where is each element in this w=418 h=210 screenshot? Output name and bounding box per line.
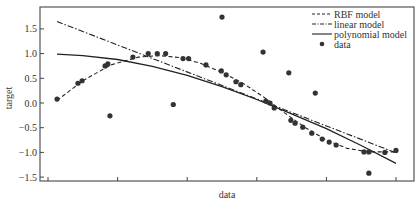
data-point bbox=[272, 105, 277, 110]
data-point bbox=[80, 78, 85, 83]
data-point bbox=[155, 51, 160, 56]
data-point bbox=[186, 56, 191, 61]
legend: RBF modellinear modelpolynomial modeldat… bbox=[312, 9, 407, 50]
data-point bbox=[107, 113, 112, 118]
data-point bbox=[382, 150, 387, 155]
data-point bbox=[130, 54, 135, 59]
data-point bbox=[288, 118, 293, 123]
data-legend-swatch bbox=[320, 42, 325, 47]
data-point bbox=[224, 72, 229, 77]
data-point bbox=[313, 91, 318, 96]
data-point bbox=[320, 136, 325, 141]
x-axis-ticks bbox=[48, 177, 396, 181]
data-point bbox=[171, 102, 176, 107]
y-tick-label: 0.0 bbox=[25, 98, 38, 109]
data-point bbox=[366, 149, 371, 154]
y-tick-label: −1.0 bbox=[19, 147, 37, 158]
data-point bbox=[327, 139, 332, 144]
y-axis-label: target bbox=[3, 86, 14, 109]
y-tick-label: 1.0 bbox=[25, 48, 38, 59]
data-point bbox=[54, 96, 59, 101]
y-tick-label: 0.5 bbox=[25, 73, 38, 84]
data-point bbox=[292, 121, 297, 126]
x-axis-label: data bbox=[219, 189, 236, 200]
data-point bbox=[300, 125, 305, 130]
y-tick-label: 1.5 bbox=[25, 23, 38, 34]
legend-label: data bbox=[334, 39, 351, 50]
data-point bbox=[219, 14, 224, 19]
data-point bbox=[267, 100, 272, 105]
y-tick-label: −0.5 bbox=[19, 122, 37, 133]
chart: 1.51.00.50.0−0.5−1.0−1.5 target data RBF… bbox=[0, 0, 418, 210]
data-point bbox=[260, 50, 265, 55]
data-point bbox=[180, 56, 185, 61]
polynomial-model-line bbox=[57, 54, 396, 163]
data-point bbox=[238, 82, 243, 87]
data-point bbox=[105, 61, 110, 66]
data-point bbox=[334, 142, 339, 147]
data-point bbox=[233, 79, 238, 84]
data-point bbox=[286, 70, 291, 75]
y-tick-label: −1.5 bbox=[19, 172, 37, 183]
data-point bbox=[361, 149, 366, 154]
data-point bbox=[393, 148, 398, 153]
data-point bbox=[219, 68, 224, 73]
data-point bbox=[203, 62, 208, 67]
data-point bbox=[366, 171, 371, 176]
data-point bbox=[163, 51, 168, 56]
data-point bbox=[146, 51, 151, 56]
data-point bbox=[309, 131, 314, 136]
